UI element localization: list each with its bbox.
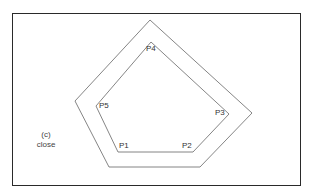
caption-label: (c) [30,130,62,140]
polygon-drawing [0,0,314,195]
vertex-label-p3: P3 [215,109,225,117]
vertex-label-p2: P2 [182,142,192,150]
vertex-label-p5: P5 [99,102,109,110]
inner-polygon [96,42,229,152]
diagram-canvas: P4 P5 P3 P1 P2 (c) close [0,0,314,195]
outer-offset-polygon [75,20,252,167]
vertex-label-p4: P4 [146,45,156,53]
figure-caption: (c) close [30,130,62,150]
caption-text: close [30,140,62,150]
vertex-label-p1: P1 [119,142,129,150]
